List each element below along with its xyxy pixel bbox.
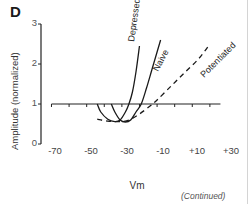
y-tick-label: 3 xyxy=(27,17,37,28)
continued-note: (Continued) xyxy=(181,191,225,201)
curve-depressed xyxy=(97,46,139,122)
curve-label-potentiated: Potentiated xyxy=(198,40,237,79)
x-tick-label: +10 xyxy=(189,145,205,156)
curve-naive xyxy=(111,40,160,122)
curve-label-depressed: Depressed xyxy=(126,0,142,42)
y-tick-label: 1 xyxy=(27,97,37,108)
curve-label-naive: Naive xyxy=(151,48,171,73)
x-tick-label: -10 xyxy=(156,145,170,156)
x-tick-label: -50 xyxy=(84,145,98,156)
y-tick-label: 2 xyxy=(27,57,37,68)
x-axis-label: Vm xyxy=(130,180,145,191)
chart-plot: DepressedNaivePotentiated xyxy=(0,0,250,204)
x-tick-label: +30 xyxy=(223,145,239,156)
x-tick-label: -70 xyxy=(48,145,62,156)
y-tick-label: 0 xyxy=(27,137,37,148)
x-tick-label: -30 xyxy=(120,145,134,156)
y-axis-label: Amplitude (normalized) xyxy=(9,150,21,204)
